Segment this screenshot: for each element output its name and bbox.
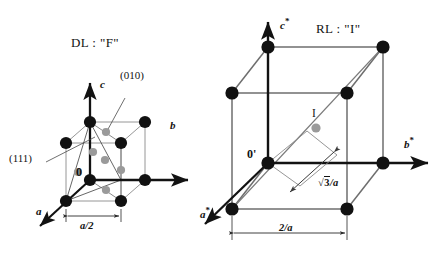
corner-atom bbox=[261, 40, 274, 53]
edge-dimension-label: 2/a bbox=[279, 223, 292, 234]
crystal-lattice-figure: DL : "F" c b a (111) (010) 0 a/2 RL : "I… bbox=[0, 0, 443, 256]
a-star-axis-asterisk: * bbox=[206, 205, 211, 215]
b-star-axis-label: b* bbox=[404, 136, 414, 150]
corner-atom bbox=[60, 195, 72, 207]
corner-atom bbox=[139, 174, 151, 186]
left-panel-title: DL : "F" bbox=[71, 36, 119, 49]
face-atom bbox=[102, 128, 110, 136]
right-axes bbox=[205, 22, 428, 224]
face-atom bbox=[101, 156, 109, 164]
right-panel-title: RL : "I" bbox=[316, 22, 360, 35]
face-atom bbox=[102, 186, 110, 194]
a-axis-label: a bbox=[36, 206, 42, 217]
corner-atom bbox=[60, 137, 72, 149]
right-body-diagonal bbox=[232, 47, 383, 209]
corner-atom bbox=[376, 156, 389, 169]
corner-atom bbox=[139, 116, 151, 128]
left-leader-lines bbox=[46, 98, 125, 162]
plane-010-label: (010) bbox=[120, 70, 144, 81]
face-atom bbox=[117, 166, 125, 174]
corner-atom bbox=[115, 137, 127, 149]
corner-atom bbox=[225, 86, 238, 99]
b-axis-label: b bbox=[170, 120, 176, 131]
left-face-atoms bbox=[74, 128, 125, 194]
radical-sign: √ bbox=[318, 177, 324, 188]
c-star-axis-label: c* bbox=[280, 17, 289, 31]
corner-atom bbox=[340, 202, 353, 215]
right-cube-group bbox=[205, 22, 428, 240]
face-atom bbox=[89, 148, 97, 156]
corner-atom bbox=[261, 156, 274, 169]
corner-atom bbox=[225, 202, 238, 215]
left-cube-group bbox=[40, 83, 188, 226]
diagonal-dimension-suffix: /a bbox=[330, 177, 338, 188]
lattice-drawing bbox=[0, 0, 443, 256]
right-origin-label: 0' bbox=[247, 148, 256, 160]
diagonal-dimension-label: √3/a bbox=[318, 178, 338, 189]
left-dimension-bar bbox=[66, 209, 121, 222]
a-star-axis-label: a* bbox=[200, 206, 210, 220]
plane-111-label: (111) bbox=[9, 153, 32, 164]
left-origin-label: 0 bbox=[76, 166, 82, 178]
c-axis-label: c bbox=[100, 79, 105, 90]
leader-010 bbox=[107, 98, 125, 131]
corner-atom bbox=[84, 174, 96, 186]
corner-atom bbox=[84, 116, 96, 128]
b-star-axis-asterisk: * bbox=[410, 135, 415, 145]
half-a-dimension-label: a/2 bbox=[80, 221, 93, 232]
left-111-plane bbox=[66, 122, 121, 201]
body-centre-site-label: I bbox=[312, 108, 316, 120]
c-star-axis-asterisk: * bbox=[285, 16, 290, 26]
corner-atom bbox=[376, 40, 389, 53]
body-centre-atom bbox=[311, 123, 320, 132]
corner-atom bbox=[115, 195, 127, 207]
corner-atom bbox=[340, 86, 353, 99]
a-star-axis-line bbox=[205, 163, 268, 224]
